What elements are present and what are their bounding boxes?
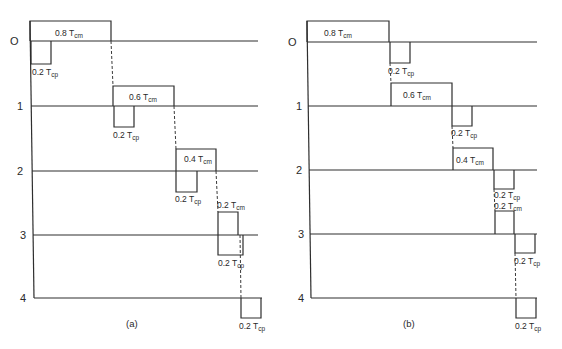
panel-b-level-label-2: 2 <box>296 164 302 176</box>
panel-a: O 1 2 3 4 0.8 Tcm 0.2 Tcp 0.6 Tcm 0.2 Tc… <box>10 21 265 333</box>
panel-b: O 1 2 3 4 0.8 Tcm 0.2 Tcp 0.6 Tcm 0.2 Tc… <box>288 21 541 333</box>
panel-a-block-label-2: 0.6 Tcm <box>129 92 157 103</box>
panel-b-compute-block-3 <box>495 211 514 234</box>
panel-b-block-label-2: 0.6 Tcm <box>403 90 431 101</box>
panel-b-block-label-3: 0.2 Tcp <box>451 128 477 140</box>
panel-b-block-label-6: 0.2 Tcm <box>494 201 522 212</box>
panel-a-block-label-8: 0.2 Tcp <box>239 321 265 333</box>
panel-a-level-label-3: 3 <box>20 229 26 241</box>
panel-b-comm-block-1 <box>452 106 472 126</box>
panel-a-compute-block-3 <box>218 212 238 235</box>
panel-a-comm-block-1 <box>114 106 134 127</box>
panel-b-comm-block-0 <box>390 42 410 63</box>
panel-b-block-label-8: 0.2 Tcp <box>515 321 541 333</box>
panel-a-block-label-5: 0.2 Tcp <box>175 194 201 206</box>
timing-diagram: O 1 2 3 4 0.8 Tcm 0.2 Tcp 0.6 Tcm 0.2 Tc… <box>0 0 562 349</box>
panel-a-block-label-3: 0.2 Tcp <box>113 130 139 142</box>
panel-a-block-label-1: 0.2 Tcp <box>32 67 58 79</box>
panel-b-block-label-0: 0.8 Tcm <box>324 28 352 39</box>
panel-b-level-label-3: 3 <box>298 228 304 240</box>
panel-b-level-label-1: 1 <box>296 100 302 112</box>
panel-b-block-label-4: 0.4 Tcm <box>456 155 484 166</box>
panel-a-block-label-4: 0.4 Tcm <box>184 154 212 165</box>
panel-a-dependency-link-1 <box>174 106 176 149</box>
panel-a-level-label-0: O <box>10 35 19 47</box>
panel-a-block-label-0: 0.8 Tcm <box>55 28 83 39</box>
panel-a-dependency-link-3 <box>240 235 241 298</box>
panel-b-caption: (b) <box>403 318 415 329</box>
panel-a-comm-block-0 <box>31 41 51 64</box>
panel-a-caption: (a) <box>126 318 138 329</box>
panel-a-dependency-link-0 <box>111 41 113 86</box>
panel-a-comm-block-4 <box>241 298 261 318</box>
panel-a-level-label-4: 4 <box>20 292 26 304</box>
panel-b-block-label-7: 0.2 Tcp <box>514 256 540 268</box>
panel-b-level-label-0: O <box>288 36 297 48</box>
panel-a-level-label-1: 1 <box>17 100 23 112</box>
panel-b-comm-block-2 <box>494 170 514 189</box>
panel-b-block-label-1: 0.2 Tcp <box>388 66 414 78</box>
panel-b-comm-block-3 <box>515 234 535 253</box>
panel-a-comm-block-3 <box>218 235 243 255</box>
panel-a-level-label-2: 2 <box>17 165 23 177</box>
panel-b-level-label-4: 4 <box>298 292 304 304</box>
panel-a-block-label-7: 0.2 Tcp <box>218 258 244 270</box>
panel-a-block-label-6: 0.2 Tcm <box>217 200 245 211</box>
panel-a-comm-block-2 <box>176 171 197 192</box>
panel-b-comm-block-4 <box>516 298 536 318</box>
panel-b-axis <box>307 21 311 298</box>
